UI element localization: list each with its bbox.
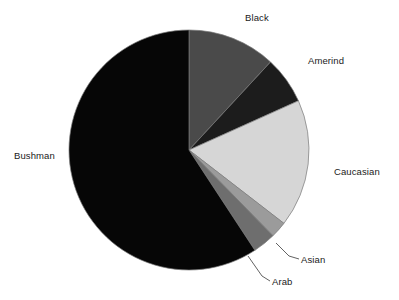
pie-slices [69, 30, 309, 270]
pie-label-asian: Asian [301, 255, 325, 265]
pie-label-amerind: Amerind [308, 56, 344, 66]
pie-label-caucasian: Caucasian [334, 167, 380, 177]
pie-chart-figure [0, 0, 399, 300]
pie-label-bushman: Bushman [14, 151, 55, 161]
pie-label-black: Black [245, 13, 269, 23]
pie-label-arab: Arab [272, 277, 292, 287]
